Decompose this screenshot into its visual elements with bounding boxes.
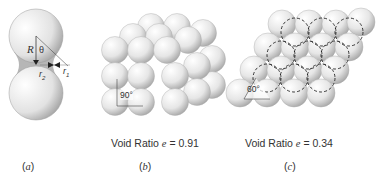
- void-ratio-c: Void Ratio e = 0.34: [245, 137, 333, 149]
- label-r1: r1: [63, 66, 69, 78]
- caption-b-letter: b: [143, 161, 148, 172]
- void-ratio-c-value: = 0.34: [303, 137, 333, 149]
- label-angle-60: 60°: [247, 84, 260, 94]
- void-ratio-c-symbol: e: [296, 138, 301, 149]
- figure-canvas: [0, 0, 377, 182]
- r1-subscript: 1: [66, 72, 69, 78]
- void-ratio-b-symbol: e: [162, 138, 167, 149]
- caption-c-letter: c: [288, 161, 293, 172]
- void-ratio-b: Void Ratio e = 0.91: [111, 137, 199, 149]
- void-ratio-b-text: Void Ratio: [111, 137, 159, 149]
- label-radius-R: R: [27, 43, 34, 55]
- panel-b-cubic-packing: [102, 14, 226, 116]
- panel-a-spheres: [9, 9, 70, 120]
- r2-subscript: 2: [42, 75, 45, 81]
- label-r2: r2: [39, 69, 45, 81]
- r1-arrow-right: [54, 62, 60, 68]
- caption-b: (b): [139, 160, 151, 172]
- void-ratio-c-text: Void Ratio: [245, 137, 293, 149]
- sphere-bottom: [9, 66, 63, 120]
- caption-a-letter: a: [26, 161, 31, 172]
- label-theta: θ: [39, 45, 44, 55]
- void-ratio-b-value: = 0.91: [169, 137, 199, 149]
- caption-a: (a): [22, 160, 34, 172]
- caption-c: (c): [284, 160, 296, 172]
- label-angle-90: 90°: [120, 90, 133, 100]
